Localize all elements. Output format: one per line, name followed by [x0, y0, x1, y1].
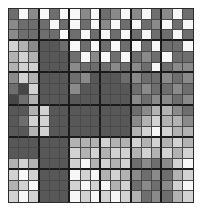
- heatmap-cell: [9, 20, 19, 31]
- heatmap-cell: [111, 9, 121, 20]
- heatmap-cell: [70, 20, 80, 31]
- heatmap-cell: [152, 52, 162, 63]
- heatmap-cell: [101, 63, 111, 74]
- heatmap-cell: [50, 20, 60, 31]
- heatmap-cell: [50, 116, 60, 127]
- heatmap-cell: [19, 73, 29, 84]
- heatmap-cell: [40, 30, 50, 41]
- heatmap-cell: [142, 106, 152, 117]
- heatmap-cell: [183, 159, 193, 170]
- heatmap-cell: [142, 148, 152, 159]
- heatmap-cell: [29, 148, 39, 159]
- heatmap-cell: [121, 181, 131, 192]
- heatmap-cell: [183, 148, 193, 159]
- heatmap-cell: [152, 148, 162, 159]
- heatmap-cell: [29, 95, 39, 106]
- heatmap-cell: [101, 9, 111, 20]
- heatmap-cell: [19, 20, 29, 31]
- heatmap-cell: [29, 63, 39, 74]
- heatmap-cell: [50, 148, 60, 159]
- heatmap-cell: [183, 138, 193, 149]
- heatmap-cell: [70, 63, 80, 74]
- heatmap-cell: [40, 159, 50, 170]
- heatmap-cell: [183, 170, 193, 181]
- heatmap-cell: [111, 95, 121, 106]
- heatmap-cell: [9, 127, 19, 138]
- heatmap-cell: [121, 52, 131, 63]
- heatmap-cell: [183, 20, 193, 31]
- heatmap-cell: [19, 84, 29, 95]
- heatmap-cell: [162, 41, 172, 52]
- heatmap-cell: [60, 95, 70, 106]
- heatmap-cell: [50, 41, 60, 52]
- heatmap-cell: [132, 95, 142, 106]
- heatmap-cell: [91, 84, 101, 95]
- heatmap-cell: [60, 159, 70, 170]
- heatmap-cell: [111, 20, 121, 31]
- heatmap-cell: [162, 106, 172, 117]
- heatmap-cell: [50, 138, 60, 149]
- heatmap-cell: [81, 95, 91, 106]
- heatmap-cell: [173, 63, 183, 74]
- heatmap-cell: [50, 181, 60, 192]
- heatmap-cell: [81, 116, 91, 127]
- heatmap-cell: [29, 20, 39, 31]
- heatmap-cell: [183, 116, 193, 127]
- heatmap-cell: [111, 116, 121, 127]
- heatmap-cell: [19, 52, 29, 63]
- heatmap-cell: [60, 127, 70, 138]
- heatmap-cell: [173, 138, 183, 149]
- heatmap-cell: [19, 30, 29, 41]
- heatmap-cell: [70, 41, 80, 52]
- heatmap-cell: [9, 148, 19, 159]
- heatmap-cell: [162, 159, 172, 170]
- heatmap-cell: [81, 181, 91, 192]
- heatmap-cell: [142, 41, 152, 52]
- heatmap-cell: [121, 63, 131, 74]
- heatmap-cell: [91, 106, 101, 117]
- heatmap-cell: [142, 181, 152, 192]
- heatmap-cell: [152, 73, 162, 84]
- heatmap-cell: [50, 63, 60, 74]
- heatmap-cell: [142, 116, 152, 127]
- heatmap-cell: [91, 41, 101, 52]
- heatmap-cell: [101, 106, 111, 117]
- heatmap-cell: [183, 127, 193, 138]
- heatmap-cell: [70, 138, 80, 149]
- heatmap-cell: [60, 181, 70, 192]
- heatmap-cell: [101, 41, 111, 52]
- heatmap-cell: [152, 9, 162, 20]
- heatmap-cell: [183, 191, 193, 202]
- heatmap-cell: [60, 30, 70, 41]
- heatmap-cell: [50, 159, 60, 170]
- heatmap-cell: [162, 63, 172, 74]
- heatmap-cell: [121, 73, 131, 84]
- heatmap-cell: [81, 52, 91, 63]
- heatmap-cell: [29, 127, 39, 138]
- heatmap-cell: [111, 181, 121, 192]
- heatmap-cell: [81, 73, 91, 84]
- heatmap-cell: [9, 95, 19, 106]
- heatmap-cell: [101, 73, 111, 84]
- heatmap-cell: [60, 20, 70, 31]
- heatmap-cell: [50, 191, 60, 202]
- heatmap-cell: [40, 170, 50, 181]
- heatmap-cell: [29, 30, 39, 41]
- heatmap-cell: [132, 159, 142, 170]
- heatmap-cell: [142, 191, 152, 202]
- heatmap-cell: [29, 170, 39, 181]
- heatmap-cell: [162, 116, 172, 127]
- heatmap-cell: [9, 52, 19, 63]
- heatmap-cell: [111, 159, 121, 170]
- heatmap-cell: [40, 191, 50, 202]
- heatmap-cell: [183, 63, 193, 74]
- heatmap-cell: [121, 191, 131, 202]
- heatmap-cell: [50, 95, 60, 106]
- heatmap-cell: [183, 73, 193, 84]
- heatmap-cell: [142, 63, 152, 74]
- heatmap-cell: [173, 116, 183, 127]
- heatmap-cell: [152, 138, 162, 149]
- heatmap-cell: [111, 84, 121, 95]
- heatmap-cell: [81, 63, 91, 74]
- heatmap-cell: [40, 95, 50, 106]
